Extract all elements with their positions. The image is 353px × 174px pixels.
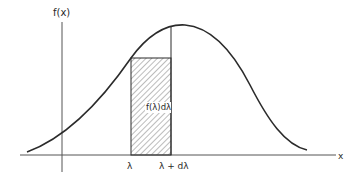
probability-density-diagram: f(x) x λ λ + dλ f(λ)dλ: [0, 0, 353, 174]
strip-right-label: λ + dλ: [159, 161, 189, 171]
y-axis-label: f(x): [53, 7, 70, 18]
strip-area-label: f(λ)dλ: [146, 102, 171, 112]
strip-left-label: λ: [127, 161, 133, 171]
x-axis-label: x: [338, 151, 344, 161]
